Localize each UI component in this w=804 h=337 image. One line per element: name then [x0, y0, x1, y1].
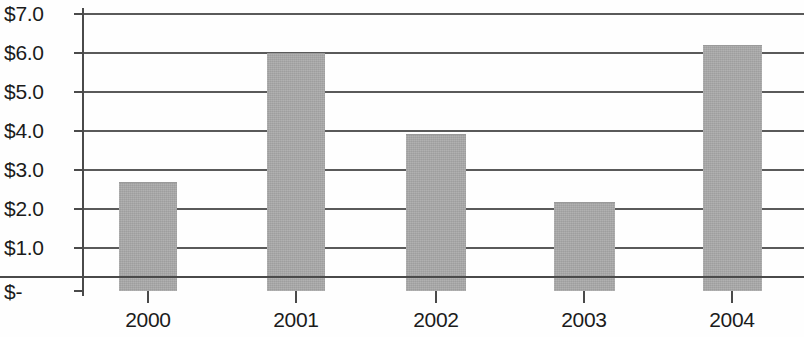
y-axis-label-7: $7.0 [4, 3, 44, 24]
x-axis-label-2002: 2002 [413, 309, 459, 330]
y-tick-3 [74, 169, 84, 171]
bar-2001 [267, 53, 325, 291]
y-tick-5 [74, 91, 84, 93]
x-axis-label-2001: 2001 [273, 309, 319, 330]
y-tick-1 [74, 247, 84, 249]
bar-2004 [703, 45, 762, 291]
x-tick-2004 [731, 291, 733, 303]
x-axis-label-2003: 2003 [561, 309, 607, 330]
x-axis-label-2004: 2004 [709, 309, 755, 330]
y-axis-label-4: $4.0 [4, 120, 44, 141]
bar-2000 [119, 182, 177, 291]
x-axis-label-2000: 2000 [125, 309, 171, 330]
y-tick-4 [74, 130, 84, 132]
bar-2002 [406, 134, 466, 291]
y-tick-7 [74, 13, 84, 15]
y-axis-label-3: $3.0 [4, 159, 44, 180]
gridline-4 [82, 130, 804, 132]
y-tick-2 [74, 208, 84, 210]
y-axis-label-2: $2.0 [4, 198, 44, 219]
y-axis-label-1: $1.0 [4, 237, 44, 258]
x-axis-baseline [0, 276, 804, 278]
y-tick-0 [74, 290, 84, 292]
x-tick-2003 [583, 291, 585, 303]
y-axis-label-6: $6.0 [4, 42, 44, 63]
gridline-5 [82, 91, 804, 93]
x-tick-2001 [295, 291, 297, 303]
y-axis-label-0: $- [4, 281, 22, 302]
x-tick-2000 [147, 291, 149, 303]
x-tick-2002 [435, 291, 437, 303]
y-tick-6 [74, 52, 84, 54]
gridline-7 [82, 13, 804, 15]
y-axis-label-5: $5.0 [4, 81, 44, 102]
gridline-6 [82, 52, 804, 54]
bar-chart: $7.0 $6.0 $5.0 $4.0 $3.0 $2.0 $1.0 $- 20… [0, 0, 804, 337]
